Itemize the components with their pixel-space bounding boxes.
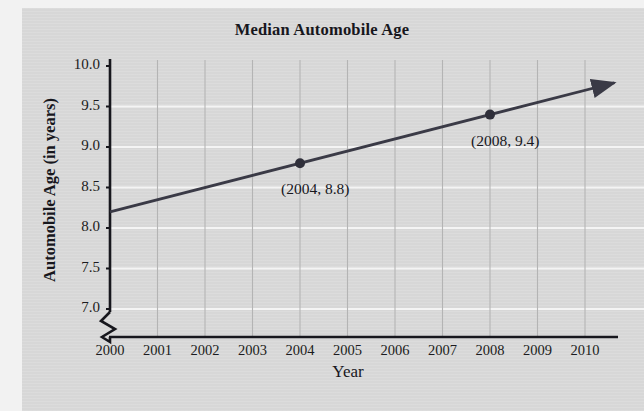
y-tick-label: 7.0 [52, 299, 100, 316]
x-tick-label: 2004 [273, 342, 327, 359]
x-tick-label: 2002 [178, 342, 232, 359]
x-tick-label: 2000 [83, 342, 137, 359]
x-tick-label: 2005 [321, 342, 375, 359]
vertical-gridlines [158, 60, 586, 337]
x-tick-label: 2007 [416, 342, 470, 359]
data-point-annotation-2: (2008, 9.4) [471, 132, 539, 150]
chart-figure: Median Automobile Age Automobile Age (in… [0, 0, 644, 411]
y-tick-label: 8.0 [52, 218, 100, 235]
y-tick-label: 9.0 [52, 137, 100, 154]
horizontal-gridlines [110, 107, 644, 310]
x-tick-label: 2001 [131, 342, 185, 359]
x-tick-label: 2010 [558, 342, 612, 359]
x-tick-label: 2006 [368, 342, 422, 359]
data-point-marker [485, 110, 495, 120]
data-point-annotation-1: (2004, 8.8) [281, 180, 349, 198]
x-tick-label: 2008 [463, 342, 517, 359]
y-tick-label: 10.0 [52, 56, 100, 73]
y-tick-label: 8.5 [52, 178, 100, 195]
x-tick-label: 2009 [511, 342, 565, 359]
y-tick-label: 9.5 [52, 97, 100, 114]
data-point-marker [295, 158, 305, 168]
y-tick-label: 7.5 [52, 259, 100, 276]
x-tick-label: 2003 [226, 342, 280, 359]
